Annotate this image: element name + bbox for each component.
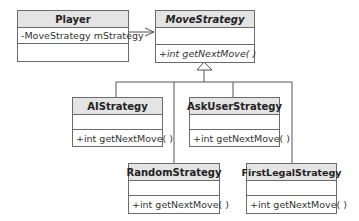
class-askuserstrategy: AskUserStrategy +int getNextMove( ) xyxy=(189,97,280,147)
class-name: RandomStrategy xyxy=(129,164,219,181)
class-attributes: -MoveStrategy mStrategy xyxy=(18,28,128,44)
class-methods: +int getNextMove( ) xyxy=(247,196,336,213)
class-player: Player -MoveStrategy mStrategy xyxy=(17,10,129,62)
class-methods xyxy=(18,44,128,61)
class-attributes xyxy=(129,181,219,196)
class-attributes xyxy=(73,115,162,130)
class-methods: +int getNextMove( ) xyxy=(73,130,162,146)
class-randomstrategy: RandomStrategy +int getNextMove( ) xyxy=(128,163,220,214)
class-attributes xyxy=(156,28,254,45)
class-name: Player xyxy=(18,11,128,28)
class-methods: +int getNextMove( ) xyxy=(129,196,219,213)
class-name: AskUserStrategy xyxy=(190,98,279,115)
class-firstlegalstrategy: FirstLegalStrategy +int getNextMove( ) xyxy=(246,163,337,214)
class-aistrategy: AIStrategy +int getNextMove( ) xyxy=(72,97,163,147)
class-name: FirstLegalStrategy xyxy=(247,164,336,181)
class-name: AIStrategy xyxy=(73,98,162,115)
class-name: MoveStrategy xyxy=(156,11,254,28)
class-attributes xyxy=(247,181,336,196)
class-methods: +int getNextMove( ) xyxy=(156,45,254,62)
class-attributes xyxy=(190,115,279,130)
class-movestrategy: MoveStrategy +int getNextMove( ) xyxy=(155,10,255,63)
class-methods: +int getNextMove( ) xyxy=(190,130,279,146)
